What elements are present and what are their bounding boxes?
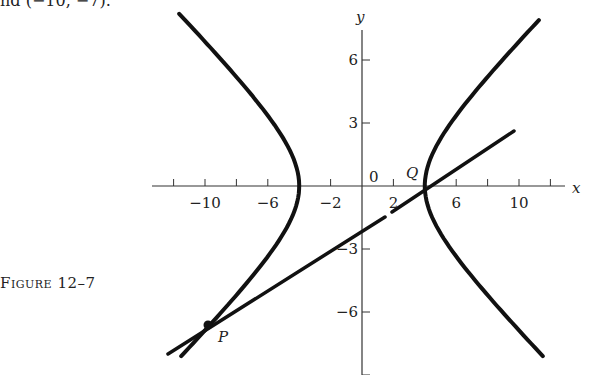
hyperbola-right-branch: [425, 20, 543, 356]
x-tick-label: −2: [320, 194, 342, 212]
y-tick-label: −6: [336, 303, 358, 321]
x-tick-label: 6: [451, 194, 461, 212]
x-tick-labels: −10−6−22610: [189, 194, 528, 212]
y-tick-label: 3: [348, 114, 358, 132]
y-tick-label: −3: [336, 240, 358, 258]
y-axis-ticks: [362, 60, 370, 375]
x-tick-label: −6: [257, 194, 279, 212]
hyperbola-figure: x y 0 Q P −10−6−22610 63−3−6: [0, 0, 590, 375]
x-tick-label: 2: [389, 194, 399, 212]
y-tick-label: 6: [348, 51, 358, 69]
hyperbola-left-branch: [179, 14, 299, 356]
y-axis-label: y: [355, 8, 365, 26]
x-tick-label: 10: [509, 194, 528, 212]
point-q-label: Q: [406, 164, 418, 182]
figure-caption: Figure 12–7: [0, 274, 96, 292]
x-axis-label: x: [572, 179, 581, 197]
origin-label: 0: [369, 168, 379, 186]
line-pq-lower: [168, 217, 385, 354]
point-p-label: P: [217, 328, 229, 346]
point-p-marker: [204, 321, 213, 330]
x-tick-label: −10: [189, 194, 221, 212]
